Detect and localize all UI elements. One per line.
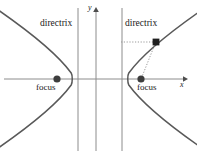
focus-label-left: focus: [36, 83, 56, 92]
hyperbola-diagram: [0, 0, 197, 155]
x-axis-label: x: [180, 81, 184, 89]
directrix-label-right: directrix: [125, 19, 157, 29]
y-axis-label: y: [88, 4, 92, 12]
focus-label-right: focus: [137, 83, 157, 92]
directrix-label-left: directrix: [40, 19, 72, 29]
hyperbola-figure: directrix directrix focus focus y x: [0, 0, 197, 155]
curve-point-marker: [153, 39, 160, 46]
y-axis-arrow-icon: [93, 7, 99, 12]
distance-to-focus-segment: [142, 44, 156, 78]
